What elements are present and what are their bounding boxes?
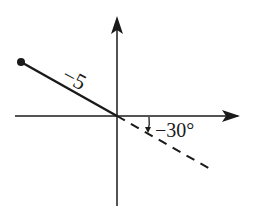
vector-endpoint-dot [17,58,25,66]
vector-label: −5 [58,62,90,95]
polar-diagram: −5 −30° [0,0,254,214]
angle-label: −30° [155,119,194,141]
